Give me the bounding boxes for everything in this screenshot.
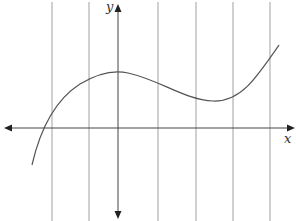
vertical-grid-lines [52, 2, 270, 221]
arrow-left-icon [4, 125, 12, 132]
arrow-up-icon [115, 4, 122, 12]
graph-canvas [0, 0, 296, 221]
y-axis [115, 4, 122, 219]
y-axis-label: y [106, 0, 113, 14]
function-curve [32, 45, 279, 165]
function-graph: y x [0, 0, 296, 221]
arrow-down-icon [115, 211, 122, 219]
x-axis [4, 125, 295, 132]
x-axis-label: x [284, 131, 291, 146]
